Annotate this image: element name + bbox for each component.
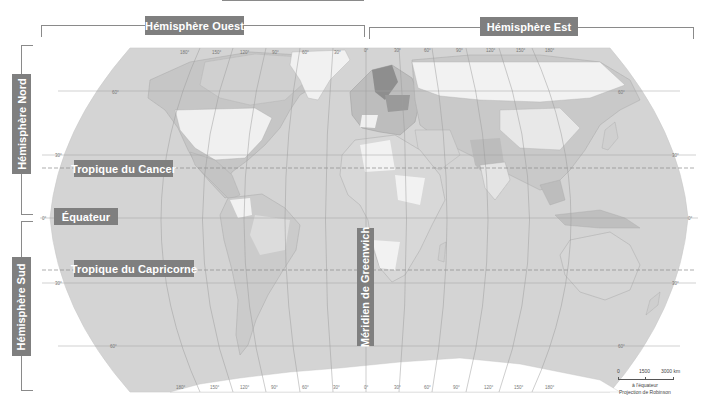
- equator-label: Équateur: [54, 208, 118, 225]
- scale-tick-3000: 3000 km: [661, 368, 680, 374]
- svg-text:60°: 60°: [112, 90, 119, 95]
- svg-text:90°: 90°: [453, 385, 460, 390]
- svg-text:120°: 120°: [240, 385, 250, 390]
- svg-text:60°: 60°: [302, 50, 309, 55]
- svg-text:30°: 30°: [333, 385, 340, 390]
- svg-text:30°: 30°: [672, 281, 679, 286]
- svg-text:150°: 150°: [516, 48, 526, 53]
- svg-text:90°: 90°: [271, 385, 278, 390]
- svg-text:150°: 150°: [212, 50, 222, 55]
- svg-text:120°: 120°: [486, 48, 496, 53]
- svg-text:60°: 60°: [110, 344, 117, 349]
- greenwich-meridian-label: Méridien de Greenwich: [357, 228, 374, 346]
- svg-text:60°: 60°: [424, 385, 431, 390]
- svg-text:30°: 30°: [394, 48, 401, 53]
- scale-bar: 0 1500 3000 km à l'équateur Projection d…: [617, 368, 689, 408]
- scale-note: à l'équateur: [632, 382, 658, 388]
- svg-text:0°: 0°: [364, 385, 369, 390]
- scale-tick-1500: 1500: [639, 368, 650, 374]
- svg-text:60°: 60°: [424, 48, 431, 53]
- svg-text:180°: 180°: [180, 50, 190, 55]
- projection-label: Projection de Robinson: [619, 389, 671, 395]
- svg-text:30°: 30°: [55, 153, 62, 158]
- scale-line: [618, 377, 674, 380]
- svg-text:30°: 30°: [672, 153, 679, 158]
- tropic-of-capricorn-label: Tropique du Capricorne: [74, 260, 194, 277]
- tropic-of-cancer-label: Tropique du Cancer: [74, 160, 173, 177]
- svg-text:120°: 120°: [240, 50, 250, 55]
- svg-text:0°: 0°: [688, 216, 693, 221]
- svg-text:150°: 150°: [514, 385, 524, 390]
- svg-text:60°: 60°: [302, 385, 309, 390]
- svg-text:180°: 180°: [176, 385, 186, 390]
- svg-text:30°: 30°: [394, 385, 401, 390]
- svg-text:180°: 180°: [545, 48, 555, 53]
- svg-text:60°: 60°: [618, 344, 625, 349]
- svg-text:90°: 90°: [272, 50, 279, 55]
- scale-tick-0: 0: [617, 368, 620, 374]
- svg-text:30°: 30°: [334, 50, 341, 55]
- svg-text:0°: 0°: [42, 216, 47, 221]
- svg-text:0°: 0°: [364, 48, 369, 53]
- svg-text:90°: 90°: [456, 48, 463, 53]
- svg-text:120°: 120°: [484, 385, 494, 390]
- svg-text:30°: 30°: [55, 281, 62, 286]
- svg-text:60°: 60°: [618, 90, 625, 95]
- svg-text:180°: 180°: [545, 385, 555, 390]
- svg-text:150°: 150°: [210, 385, 220, 390]
